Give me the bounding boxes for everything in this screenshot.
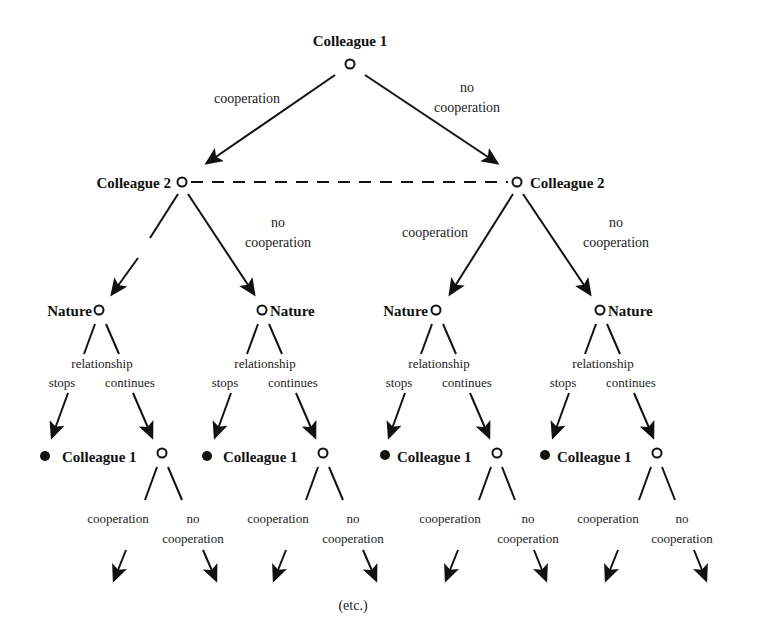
c2r-left-label: cooperation [402,225,468,240]
colleague1-label: Colleague 1 [223,449,298,465]
branch-left-label: cooperation [247,511,309,526]
level4-group-3: Colleague 1 cooperation no cooperation [380,449,559,581]
branch-right-label-2: cooperation [322,531,384,546]
root-edge-right-label-2: cooperation [434,100,500,115]
edge-c2r-cooperation [450,194,513,294]
nature-label: Nature [383,303,428,319]
c2l-right-label-1: no [271,215,285,230]
branch-right-label-1: no [676,511,689,526]
branch-header: relationship [234,356,295,371]
decision-node-icon [513,178,522,187]
game-tree-diagram: Colleague 1 cooperation no cooperation C… [0,0,757,638]
branch-left-label: cooperation [419,511,481,526]
branch-left-label: stops [212,375,239,390]
nature-node-2: Nature [258,303,316,319]
root-edge-left-label: cooperation [214,91,280,106]
root-edge-right-label-1: no [460,80,474,95]
terminal-node-icon [540,450,550,460]
c2l-right-label-2: cooperation [245,235,311,250]
nature-branches-4: relationship stops continues [550,324,656,437]
nature-node-4: Nature [596,303,654,319]
decision-node-icon [178,178,187,187]
nature-branches-2: relationship stops continues [212,324,318,437]
terminal-node-icon [202,451,212,461]
decision-node-icon [319,449,328,458]
branch-right-label-1: no [522,511,535,526]
branch-left-label: stops [49,375,76,390]
branch-right-label-1: no [347,511,360,526]
colleague1-label: Colleague 1 [397,449,472,465]
branch-left-label: cooperation [577,511,639,526]
terminal-node-icon [40,451,50,461]
colleague1-label: Colleague 1 [557,449,632,465]
nature-branches-1: relationship stops continues [49,324,155,437]
decision-node-icon [158,449,167,458]
level4-group-2: Colleague 1 cooperation no cooperation [202,449,384,581]
branch-right-label-2: cooperation [162,531,224,546]
c2r-right-label-2: cooperation [583,235,649,250]
branch-right-label: continues [268,375,318,390]
root-node: Colleague 1 [313,33,388,69]
edge-c2l-cooperation-top [150,194,178,238]
nature-branches-3: relationship stops continues [386,324,492,437]
etc-footer: (etc.) [338,598,367,614]
edge-c2l-cooperation [112,258,138,294]
colleague2-right-label: Colleague 2 [530,175,605,191]
branch-right-label: continues [442,375,492,390]
colleague2-left-label: Colleague 2 [96,175,171,191]
nature-label: Nature [47,303,92,319]
branch-header: relationship [71,356,132,371]
edge-c2r-no-cooperation [523,194,590,294]
branch-right-label-1: no [187,511,200,526]
branch-left-label: cooperation [87,511,149,526]
chance-node-icon [596,306,605,315]
decision-node-icon [346,60,355,69]
edge-root-cooperation [207,75,335,163]
branch-header: relationship [408,356,469,371]
edge-root-no-cooperation [365,75,497,163]
chance-node-icon [258,306,267,315]
colleague1-label: Colleague 1 [62,449,137,465]
level4-group-1: Colleague 1 cooperation no cooperation [40,449,224,581]
branch-right-label: continues [606,375,656,390]
chance-node-icon [95,306,104,315]
branch-right-label: continues [105,375,155,390]
decision-node-icon [653,449,662,458]
branch-left-label: stops [550,375,577,390]
nature-node-1: Nature [47,303,103,319]
nature-node-3: Nature [383,303,440,319]
nature-label: Nature [270,303,315,319]
level4-group-4: Colleague 1 cooperation no cooperation [540,449,713,581]
branch-left-label: stops [386,375,413,390]
root-label: Colleague 1 [313,33,388,49]
branch-header: relationship [572,356,633,371]
nature-label: Nature [608,303,653,319]
branch-right-label-2: cooperation [497,531,559,546]
branch-right-label-2: cooperation [651,531,713,546]
terminal-node-icon [380,450,390,460]
c2r-right-label-1: no [609,215,623,230]
chance-node-icon [432,306,441,315]
decision-node-icon [493,449,502,458]
